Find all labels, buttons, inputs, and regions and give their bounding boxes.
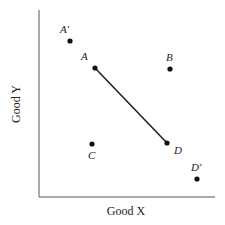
label-d: D (173, 144, 182, 156)
point-c: C (88, 141, 96, 161)
label-a-prime: A′ (59, 23, 70, 35)
diagram-canvas: A′ A B C D D′ Good X Good Y (0, 0, 225, 225)
point-a: A (80, 50, 98, 71)
label-b: B (166, 51, 173, 63)
point-b: B (166, 51, 173, 72)
point-d-prime: D′ (190, 161, 202, 182)
label-d-prime: D′ (190, 161, 202, 173)
label-a: A (80, 50, 88, 62)
point-d: D (164, 140, 182, 156)
x-axis-label: Good X (107, 204, 146, 218)
segment-a-d (95, 68, 167, 143)
label-c: C (88, 149, 96, 161)
point-a-prime: A′ (59, 23, 73, 44)
y-axis-label: Good Y (9, 85, 23, 123)
